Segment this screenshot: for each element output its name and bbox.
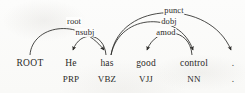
dependency-arc-layer: [0, 0, 245, 93]
arc-label-punct: punct: [163, 6, 184, 15]
arc-label-nsubj: nsubj: [75, 28, 96, 37]
token-tag-period: .: [232, 74, 234, 84]
arc-label-dobj: dobj: [160, 17, 178, 26]
dependency-parse-figure: root nsubj punct dobj amod ROOT He has g…: [0, 0, 245, 93]
arc-path-dobj: [111, 22, 193, 55]
token-word-has: has: [100, 58, 113, 68]
token-tag-he: PRP: [63, 74, 80, 84]
arc-label-amod: amod: [155, 28, 176, 37]
token-word-he: He: [65, 58, 76, 68]
arc-path-nsubj: [73, 36, 106, 55]
token-word-good: good: [136, 58, 156, 68]
token-tag-good: VJJ: [139, 74, 153, 84]
arc-label-root: root: [66, 17, 82, 26]
token-word-root: ROOT: [16, 58, 43, 68]
token-tag-control: NN: [187, 74, 200, 84]
token-tag-has: VBZ: [98, 74, 117, 84]
token-word-period: .: [232, 58, 234, 68]
token-word-control: control: [180, 58, 208, 68]
